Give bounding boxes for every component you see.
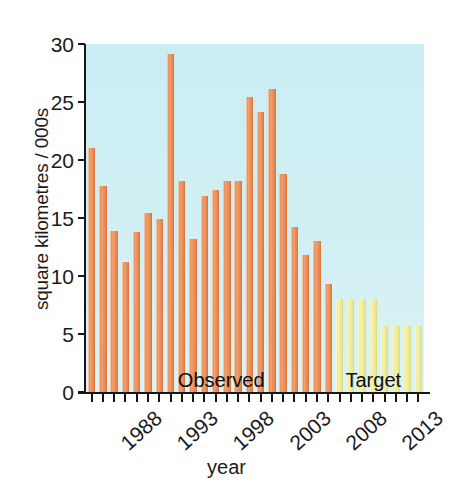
- bar-2008: [313, 241, 320, 392]
- bar-1994: [156, 219, 163, 392]
- x-tick-mark-2000: [226, 394, 228, 402]
- x-tick-mark-2005: [282, 394, 284, 402]
- x-tick-mark-2003: [260, 394, 262, 402]
- y-tick-mark-10: [78, 275, 85, 277]
- x-tick-mark-2002: [248, 394, 250, 402]
- x-axis-title: year: [0, 456, 453, 479]
- x-tick-label-1998: 1998: [228, 406, 279, 455]
- bar-2001: [234, 181, 241, 392]
- y-tick-mark-15: [78, 217, 85, 219]
- x-tick-mark-1994: [158, 394, 160, 402]
- x-tick-mark-2017: [417, 394, 419, 402]
- bar-1991: [122, 262, 129, 392]
- x-tick-mark-1997: [192, 394, 194, 402]
- x-tick-mark-2011: [350, 394, 352, 402]
- y-tick-mark-25: [78, 101, 85, 103]
- x-tick-mark-2008: [316, 394, 318, 402]
- x-tick-mark-2012: [361, 394, 363, 402]
- x-tick-label-2003: 2003: [285, 406, 336, 455]
- bar-2000: [223, 181, 230, 392]
- bar-2016: [403, 326, 410, 392]
- y-tick-mark-0: [78, 391, 85, 393]
- x-tick-mark-2015: [395, 394, 397, 402]
- x-tick-mark-1988: [91, 394, 93, 402]
- x-tick-mark-1991: [124, 394, 126, 402]
- bar-1999: [212, 190, 219, 392]
- y-tick-mark-20: [78, 159, 85, 161]
- x-tick-mark-2006: [293, 394, 295, 402]
- bar-2006: [291, 227, 298, 392]
- x-tick-mark-2010: [339, 394, 341, 402]
- bar-2007: [302, 255, 309, 392]
- bar-1989: [99, 186, 106, 392]
- x-tick-mark-2016: [406, 394, 408, 402]
- x-tick-mark-1998: [203, 394, 205, 402]
- bar-2003: [257, 112, 264, 392]
- bar-1995: [167, 54, 174, 392]
- bar-1988: [88, 148, 95, 392]
- bar-1998: [201, 196, 208, 392]
- y-axis-line: [84, 44, 86, 394]
- bar-1993: [144, 213, 151, 392]
- x-tick-mark-1989: [102, 394, 104, 402]
- x-tick-mark-2001: [237, 394, 239, 402]
- bar-1992: [133, 232, 140, 392]
- x-tick-mark-1995: [170, 394, 172, 402]
- x-tick-label-2013: 2013: [397, 406, 448, 455]
- bar-chart-figure: ObservedTarget 051015202530 198819931998…: [0, 0, 453, 495]
- bar-2005: [279, 174, 286, 392]
- x-axis-line: [78, 392, 430, 394]
- x-tick-label-1988: 1988: [116, 406, 167, 455]
- bar-2002: [246, 97, 253, 392]
- x-tick-mark-1992: [136, 394, 138, 402]
- bar-2009: [325, 284, 332, 392]
- y-axis-title: square kilometres / 000s: [31, 49, 53, 369]
- bar-1990: [110, 231, 117, 392]
- y-tick-label-0: 0: [28, 382, 74, 403]
- x-tick-mark-1993: [147, 394, 149, 402]
- x-tick-label-1993: 1993: [172, 406, 223, 455]
- bar-2017: [415, 326, 422, 392]
- x-tick-mark-1999: [215, 394, 217, 402]
- x-tick-label-2008: 2008: [341, 406, 392, 455]
- x-tick-mark-2013: [372, 394, 374, 402]
- x-tick-mark-1990: [113, 394, 115, 402]
- x-tick-mark-2004: [271, 394, 273, 402]
- x-tick-mark-2014: [384, 394, 386, 402]
- bar-2010: [336, 299, 343, 392]
- annotation-target: Target: [346, 369, 402, 392]
- annotation-observed: Observed: [178, 369, 265, 392]
- x-tick-mark-1996: [181, 394, 183, 402]
- bar-2004: [268, 89, 275, 392]
- y-tick-mark-5: [78, 333, 85, 335]
- x-tick-mark-2009: [327, 394, 329, 402]
- bar-1996: [178, 181, 185, 392]
- plot-area: ObservedTarget: [86, 44, 424, 392]
- x-tick-mark-2007: [305, 394, 307, 402]
- y-tick-mark-30: [78, 43, 85, 45]
